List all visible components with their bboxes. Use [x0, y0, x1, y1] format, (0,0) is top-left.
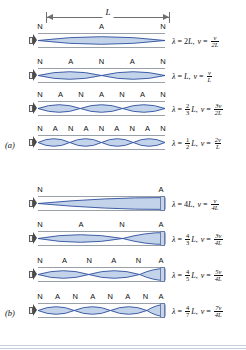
panel-label-a: (a) [5, 140, 15, 150]
pipe-open-open [38, 68, 165, 83]
dimension-arrow-right-icon [163, 14, 169, 20]
closed-end-cap [160, 303, 165, 318]
comma: , [196, 105, 198, 114]
fraction-denominator: 2L [214, 109, 223, 117]
antinode-label: A [140, 90, 145, 99]
fraction-denominator: 2 [185, 143, 190, 151]
equals-sign-2: = [199, 72, 204, 81]
pipe-open-open [38, 101, 165, 116]
lambda-symbol: λ [172, 37, 175, 46]
speaker-horn [33, 34, 37, 46]
sound-source-icon [29, 232, 38, 245]
node-label: N [143, 292, 148, 301]
sound-source-icon [29, 197, 38, 210]
fraction: 45 [185, 269, 190, 283]
antinode-label: A [130, 57, 135, 66]
equals-sign: = [177, 139, 182, 148]
fraction-denominator: 3 [185, 239, 190, 247]
closed-end-cap [160, 196, 165, 211]
node-antinode-labels: NA [38, 185, 165, 196]
antinode-label: A [114, 124, 119, 133]
node-label: N [160, 124, 165, 133]
antinode-label: A [53, 124, 58, 133]
node-label: N [99, 124, 104, 133]
standing-wave-curve [38, 267, 165, 282]
standing-wave-row: NAλ=4L,v=v4L [0, 185, 246, 219]
footer-rule-top [0, 345, 246, 346]
frequency-fraction: vL [207, 70, 213, 84]
standing-wave-curve [38, 33, 165, 48]
antinode-label: A [158, 292, 163, 301]
node-label: N [37, 292, 42, 301]
mode-formula: λ=47L,v=7v4L [172, 304, 224, 319]
sound-source-icon [29, 34, 38, 47]
fraction-denominator: 4L [214, 311, 223, 319]
comma: , [192, 200, 194, 209]
speaker-horn [33, 102, 37, 114]
antinode-label: A [145, 124, 150, 133]
sound-source-icon [29, 136, 38, 149]
pipe-open-open [38, 135, 165, 150]
frequency-fraction: v4L [211, 198, 220, 212]
frequency-symbol: v [201, 271, 205, 280]
frequency-fraction: 5v4L [214, 269, 223, 283]
standing-wave-curve [38, 196, 165, 211]
antinode-label: A [78, 220, 83, 229]
fraction-denominator: 2L [211, 41, 220, 49]
standing-wave-figure: L NANλ=2L,v=v2LNANANλ=L,v=vLNANANANλ=23L… [0, 0, 246, 350]
frequency-fraction: 3v4L [214, 233, 223, 247]
equals-sign: = [177, 307, 182, 316]
node-label: N [160, 90, 165, 99]
fraction-denominator: 4L [211, 204, 220, 212]
lambda-symbol: λ [172, 235, 175, 244]
mode-formula: λ=23L,v=3v2L [172, 102, 224, 117]
node-label: N [37, 57, 42, 66]
node-antinode-labels: NANANA [38, 256, 165, 267]
frequency-symbol: v [201, 307, 205, 316]
fraction-denominator: 4L [214, 239, 223, 247]
equals-sign-2: = [206, 307, 211, 316]
antinode-label: A [125, 292, 130, 301]
fraction-denominator: 4L [214, 275, 223, 283]
comma: , [196, 271, 198, 280]
standing-wave-row: NANANANλ=23L,v=3v2L [0, 90, 246, 124]
panel-label-b: (b) [5, 308, 15, 318]
antinode-label: A [158, 185, 163, 194]
fraction-denominator: 5 [185, 275, 190, 283]
comma: , [196, 235, 198, 244]
pipe-open-closed [38, 196, 165, 211]
standing-wave-curve [38, 101, 165, 116]
mode-formula: λ=12L,v=2vL [172, 136, 223, 151]
node-label: N [37, 256, 42, 265]
standing-wave-curve [38, 135, 165, 150]
standing-wave-row: (a)NANANANANλ=12L,v=2vL [0, 124, 246, 158]
sound-source-icon [29, 69, 38, 82]
node-label: N [136, 256, 141, 265]
node-label: N [160, 57, 165, 66]
standing-wave-curve [38, 231, 165, 246]
node-label: N [108, 292, 113, 301]
standing-wave-curve [38, 68, 165, 83]
node-label: N [78, 90, 83, 99]
antinode-label: A [111, 256, 116, 265]
frequency-symbol: v [201, 105, 205, 114]
lambda-symbol: λ [172, 271, 175, 280]
fraction: 12 [185, 137, 190, 151]
speaker-horn [33, 136, 37, 148]
antinode-label: A [55, 292, 60, 301]
frequency-fraction: 2vL [214, 137, 222, 151]
lambda-symbol: λ [172, 307, 175, 316]
speaker-horn [33, 197, 37, 209]
antinode-label: A [90, 292, 95, 301]
node-label: N [37, 90, 42, 99]
standing-wave-curve [38, 303, 165, 318]
pipe-open-open [38, 33, 165, 48]
antinode-label: A [99, 90, 104, 99]
comma: , [196, 139, 198, 148]
frequency-fraction: 7v4L [214, 305, 223, 319]
antinode-label: A [62, 256, 67, 265]
frequency-fraction: 3v2L [214, 103, 223, 117]
sound-source-icon [29, 304, 38, 317]
equals-sign-2: = [206, 139, 211, 148]
antinode-label: A [158, 220, 163, 229]
